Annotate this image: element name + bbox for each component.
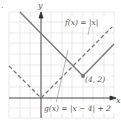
marker-dot: .	[1, 1, 4, 10]
graph: . y x f(x) = |x| (4, 2) g(x) = |x − 4| +…	[0, 0, 121, 122]
y-axis-label: y	[37, 1, 43, 10]
f-label: f(x) = |x|	[64, 18, 98, 27]
g-label: g(x) = |x − 4| + 2	[44, 104, 111, 113]
x-axis-label: x	[116, 96, 121, 105]
y-axis-arrow-icon	[39, 12, 43, 18]
g-label-leader	[55, 50, 68, 108]
point-label: (4, 2)	[85, 75, 105, 84]
